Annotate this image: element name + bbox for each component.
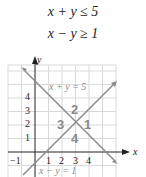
y-tick-4: 4 (25, 91, 30, 102)
axes (8, 56, 130, 177)
x-axis-arrow-icon (122, 149, 130, 155)
region-3-label: 3 (57, 117, 64, 132)
x-axis-label: x (132, 146, 138, 157)
x-tick-minus1: −1 (10, 155, 21, 166)
y-tick-1: 1 (25, 132, 30, 143)
y-tick-2: 2 (25, 118, 30, 129)
line-2-label: x − y = 1 (38, 165, 76, 176)
line-1-label: x + y = 5 (48, 81, 86, 92)
region-2-label: 2 (71, 102, 78, 117)
coordinate-graph: y x −1 1 2 3 4 1 2 3 4 x + y = 5 x − y =… (0, 0, 146, 177)
region-4-label: 4 (71, 131, 79, 146)
y-axis-label: y (36, 54, 42, 65)
region-1-label: 1 (84, 117, 91, 132)
y-tick-3: 3 (25, 105, 30, 116)
x-tick-4: 4 (86, 155, 91, 166)
